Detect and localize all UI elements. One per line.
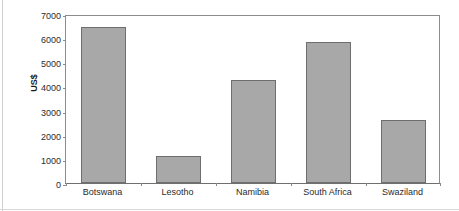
bar (231, 80, 276, 183)
bar (306, 42, 351, 183)
y-axis-tick-mark (63, 185, 66, 186)
page-edge-line-left (2, 0, 3, 211)
x-axis-tick-labels: BotswanaLesothoNamibiaSouth AfricaSwazil… (65, 187, 440, 205)
y-axis-tick-mark (63, 40, 66, 41)
plot-area: 01000200030004000500060007000 (65, 15, 440, 184)
y-axis-tick-label: 6000 (22, 35, 66, 45)
y-axis-tick-label: 2000 (22, 132, 66, 142)
y-axis-tick-mark (63, 113, 66, 114)
y-axis-tick-label: 3000 (22, 108, 66, 118)
x-axis-tick-label: Lesotho (161, 187, 193, 197)
y-axis-tick-mark (63, 16, 66, 17)
y-axis-tick-label: 5000 (22, 59, 66, 69)
x-axis-tick-mark (366, 183, 367, 186)
y-axis-tick-label: 0 (22, 180, 66, 190)
y-axis-tick-label: 4000 (22, 83, 66, 93)
y-axis-tick-mark (63, 64, 66, 65)
x-axis-tick-label: South Africa (303, 187, 352, 197)
x-axis-tick-label: Swaziland (382, 187, 423, 197)
x-axis-tick-mark (66, 183, 67, 186)
x-axis-tick-label: Botswana (83, 187, 123, 197)
bar-chart-figure: US$ 01000200030004000500060007000 Botswa… (0, 0, 459, 211)
bars-group (66, 16, 439, 183)
x-axis-tick-mark (440, 183, 441, 186)
y-axis-tick-label: 7000 (22, 11, 66, 21)
y-axis-tick-label: 1000 (22, 156, 66, 166)
y-axis-tick-mark (63, 88, 66, 89)
x-axis-tick-mark (216, 183, 217, 186)
y-axis-tick-mark (63, 137, 66, 138)
x-axis-tick-mark (291, 183, 292, 186)
bar (81, 27, 126, 183)
bar (381, 120, 426, 183)
y-axis-tick-mark (63, 161, 66, 162)
page-edge-line-bottom (0, 209, 459, 210)
x-axis-tick-mark (141, 183, 142, 186)
x-axis-tick-label: Namibia (236, 187, 269, 197)
bar (156, 156, 201, 183)
